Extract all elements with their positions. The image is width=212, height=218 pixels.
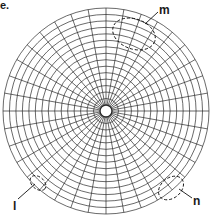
leader-line-m [145, 12, 158, 24]
leader-line-l [18, 184, 35, 199]
radial-spokes [3, 8, 209, 214]
label-l: l [13, 200, 16, 212]
polar-grid-diagram [0, 0, 212, 218]
dashed-outline-l [27, 173, 49, 194]
label-n: n [193, 195, 200, 207]
label-m: m [159, 4, 170, 16]
center-hole [100, 105, 112, 117]
panel-label: e. [0, 0, 9, 11]
leader-line-n [179, 189, 192, 198]
